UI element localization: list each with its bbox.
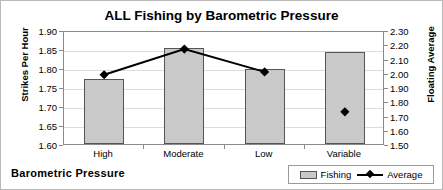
left-tick-label: 1.90 bbox=[1, 26, 57, 37]
right-tick-label: 2.10 bbox=[390, 54, 430, 65]
right-tick-label: 1.80 bbox=[390, 97, 430, 108]
right-tick-label: 1.60 bbox=[390, 125, 430, 136]
right-tick-label: 1.90 bbox=[390, 83, 430, 94]
left-tick-label: 1.85 bbox=[1, 45, 57, 56]
chart-legend: Fishing Average bbox=[288, 165, 434, 184]
right-tick-label: 2.30 bbox=[390, 26, 430, 37]
average-marker bbox=[340, 107, 349, 116]
left-tick-mark bbox=[59, 145, 63, 146]
legend-label-fishing: Fishing bbox=[321, 169, 352, 180]
average-marker bbox=[180, 45, 189, 54]
chart-container: ALL Fishing by Barometric Pressure Strik… bbox=[0, 0, 443, 190]
right-tick-label: 1.70 bbox=[390, 111, 430, 122]
chart-title: ALL Fishing by Barometric Pressure bbox=[1, 8, 442, 23]
legend-line-swatch-icon bbox=[357, 171, 383, 179]
right-tick-label: 2.20 bbox=[390, 40, 430, 51]
average-marker bbox=[100, 70, 109, 79]
average-markers bbox=[100, 45, 350, 117]
left-tick-label: 1.70 bbox=[1, 102, 57, 113]
left-tick-label: 1.65 bbox=[1, 121, 57, 132]
x-tick-label: High bbox=[93, 148, 113, 159]
x-axis-title: Barometric Pressure bbox=[11, 167, 125, 179]
legend-bar-swatch-icon bbox=[300, 171, 317, 179]
right-tick-label: 1.50 bbox=[390, 140, 430, 151]
line-series-average bbox=[64, 32, 385, 146]
left-tick-label: 1.60 bbox=[1, 140, 57, 151]
left-tick-label: 1.80 bbox=[1, 64, 57, 75]
legend-item-average: Average bbox=[357, 169, 422, 180]
x-tick-label: Moderate bbox=[163, 148, 203, 159]
average-marker bbox=[260, 67, 269, 76]
legend-label-average: Average bbox=[387, 169, 422, 180]
plot-area bbox=[63, 31, 384, 145]
right-tick-label: 2.00 bbox=[390, 68, 430, 79]
x-tick-label: Variable bbox=[327, 148, 361, 159]
left-tick-label: 1.75 bbox=[1, 83, 57, 94]
legend-item-fishing: Fishing bbox=[300, 169, 352, 180]
x-tick-label: Low bbox=[255, 148, 272, 159]
